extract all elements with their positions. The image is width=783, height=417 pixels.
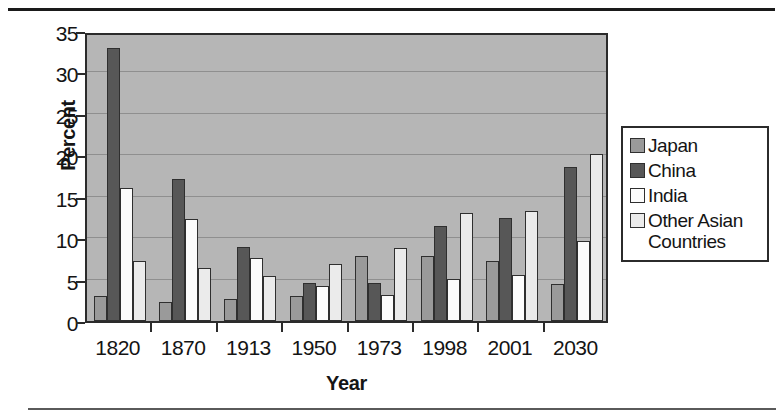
bar [394, 248, 407, 321]
y-tick-mark [76, 322, 85, 324]
bar [525, 211, 538, 321]
y-tick-label: 35 [26, 23, 78, 44]
bar [590, 154, 603, 321]
bar [421, 256, 434, 321]
bar [94, 296, 107, 321]
x-axis-tick-labels: 18201870191319501973199820012030 [85, 336, 608, 366]
y-tick-mark [76, 32, 85, 34]
y-tick-label: 5 [26, 271, 78, 292]
bar [120, 188, 133, 321]
bar [329, 264, 342, 321]
legend-item: India [630, 185, 761, 206]
bar [381, 295, 394, 321]
x-tick-mark [412, 323, 414, 332]
bar [250, 258, 263, 321]
y-tick-label: 15 [26, 188, 78, 209]
legend-item: Other Asian Countries [630, 210, 761, 252]
bar-chart-figure: Percent 05101520253035 18201870191319501… [0, 14, 783, 394]
bar [434, 226, 447, 321]
bar-group [159, 35, 211, 321]
x-tick-label: 2030 [535, 336, 615, 360]
y-tick-label: 25 [26, 105, 78, 126]
bar [263, 276, 276, 321]
x-tick-mark [216, 323, 218, 332]
legend-swatch-icon [630, 213, 645, 228]
y-tick-mark [76, 281, 85, 283]
bar-group [224, 35, 276, 321]
y-tick-mark [76, 115, 85, 117]
page-rule-bottom [28, 408, 776, 410]
y-tick-mark [76, 73, 85, 75]
bar [512, 275, 525, 321]
legend-item: China [630, 160, 761, 181]
bar [447, 279, 460, 321]
x-tick-mark [150, 323, 152, 332]
bar-group [551, 35, 603, 321]
y-tick-label: 0 [26, 313, 78, 334]
y-tick-label: 10 [26, 230, 78, 251]
bar [355, 256, 368, 321]
legend-item: Japan [630, 135, 761, 156]
legend-label: India [648, 185, 687, 206]
bar [564, 167, 577, 321]
plot-area [85, 33, 608, 323]
bar [316, 286, 329, 321]
bar [551, 284, 564, 321]
x-tick-mark [477, 323, 479, 332]
bar [185, 219, 198, 321]
y-tick-mark [76, 239, 85, 241]
legend-swatch-icon [630, 163, 645, 178]
bar-group [486, 35, 538, 321]
page-rule-top [8, 8, 775, 11]
legend-label: Japan [648, 135, 698, 156]
bar [499, 218, 512, 321]
legend-swatch-icon [630, 138, 645, 153]
bar [198, 268, 211, 321]
bar [133, 261, 146, 321]
legend-label: China [648, 160, 696, 181]
bar [577, 241, 590, 321]
bar-group [421, 35, 473, 321]
y-tick-label: 20 [26, 147, 78, 168]
y-axis-tick-labels: 05101520253035 [26, 33, 78, 323]
bar [237, 247, 250, 321]
legend-swatch-icon [630, 188, 645, 203]
bar [107, 48, 120, 321]
bar-group [290, 35, 342, 321]
bar [460, 213, 473, 321]
bar-group [94, 35, 146, 321]
bar-group [355, 35, 407, 321]
bar [172, 179, 185, 322]
x-axis-title: Year [85, 372, 608, 395]
legend-label: Other Asian Countries [648, 210, 761, 252]
bar [368, 283, 381, 321]
y-tick-mark [76, 156, 85, 158]
bar [224, 299, 237, 321]
y-tick-label: 30 [26, 64, 78, 85]
bar [486, 261, 499, 321]
bar [159, 302, 172, 321]
bar [290, 296, 303, 321]
bar [303, 283, 316, 321]
x-tick-mark [543, 323, 545, 332]
y-tick-mark [76, 198, 85, 200]
chart-legend: JapanChinaIndiaOther Asian Countries [621, 126, 769, 262]
x-tick-mark [281, 323, 283, 332]
x-tick-mark [347, 323, 349, 332]
